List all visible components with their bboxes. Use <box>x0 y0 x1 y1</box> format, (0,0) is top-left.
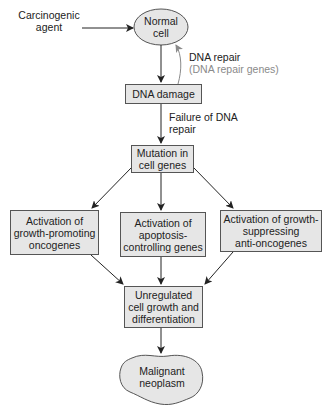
mutation-node: Mutation in cell genes <box>131 145 194 173</box>
arrow-mutation-to-antioncogenes <box>193 167 233 208</box>
normal-cell-node: Normal cell <box>134 9 188 45</box>
dna-damage-node: DNA damage <box>125 84 202 104</box>
activation-apoptosis-node: Activation of apoptosis- controlling gen… <box>120 212 206 257</box>
failure-of-dna-repair-label: Failure of DNA repair <box>169 111 238 135</box>
malignant-neoplasm-node: Malignant neoplasm <box>120 360 204 394</box>
dna-repair-label: DNA repair (DNA repair genes) <box>189 51 279 75</box>
activation-antioncogenes-node: Activation of growth- suppressing anti-o… <box>220 210 322 252</box>
arrow-dna-repair <box>176 45 181 84</box>
arrow-oncogenes-to-unregulated <box>91 255 123 284</box>
unregulated-growth-node: Unregulated cell growth and differentiat… <box>124 286 203 328</box>
arrow-antioncogenes-to-unregulated <box>205 252 233 284</box>
arrow-mutation-to-oncogenes <box>92 167 132 208</box>
dna-repair-genes-label: (DNA repair genes) <box>189 63 279 75</box>
carcinogenic-agent-label: Carcinogenic agent <box>18 9 80 33</box>
activation-oncogenes-node: Activation of growth-promoting oncogenes <box>10 210 99 255</box>
